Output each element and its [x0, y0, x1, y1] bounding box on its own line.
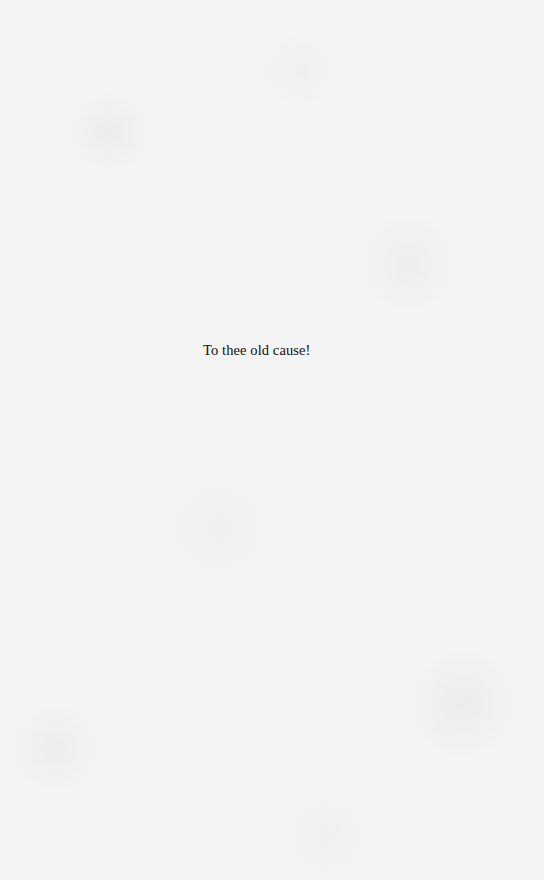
dedication-text: To thee old cause!: [203, 341, 310, 359]
document-page: To thee old cause!: [0, 0, 544, 880]
